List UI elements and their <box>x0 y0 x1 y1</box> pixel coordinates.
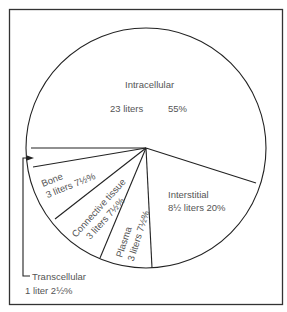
label-intracellular-percent: 55% <box>168 103 188 114</box>
label-interstitial-values: 8½ liters 20% <box>168 202 226 213</box>
label-transcellular-values: 1 liter 2½% <box>25 285 73 296</box>
boundary-interstitial-intracellular <box>146 148 256 183</box>
boundary-plasma-interstitial <box>146 148 152 268</box>
boundary-transcellular-bone <box>33 148 146 167</box>
pie-chart: Intracellular 23 liters 55% Interstitial… <box>0 0 287 312</box>
label-transcellular-name: Transcellular <box>32 271 86 282</box>
label-intracellular-volume: 23 liters <box>110 103 144 114</box>
label-interstitial-name: Interstitial <box>168 189 209 200</box>
arrow-icon <box>27 156 34 161</box>
label-intracellular-name: Intracellular <box>125 79 174 90</box>
